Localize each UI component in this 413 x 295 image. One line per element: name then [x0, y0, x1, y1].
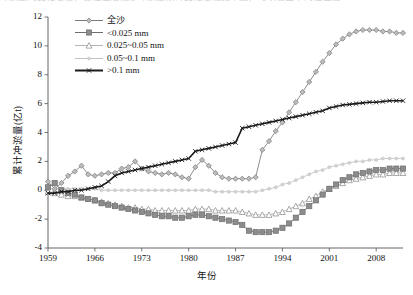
data-point-marker [240, 176, 245, 181]
data-point-marker [126, 206, 131, 211]
legend-item-1: 全沙 [74, 14, 164, 27]
legend-marker-triangle-icon [74, 40, 104, 51]
data-point-marker [340, 178, 345, 183]
data-point-marker [99, 201, 104, 206]
legend-label: >0.1 mm [107, 64, 140, 77]
y-tick-label: 10 [10, 40, 42, 50]
y-tick-label: -4 [10, 242, 42, 252]
data-point-marker [280, 225, 285, 230]
data-point-marker [159, 214, 164, 219]
data-point-marker [113, 189, 116, 192]
data-point-marker [246, 176, 251, 181]
data-point-marker [380, 29, 385, 34]
data-point-marker [293, 215, 298, 220]
data-point-marker [306, 196, 312, 202]
data-point-marker [220, 217, 225, 222]
data-point-marker [119, 205, 124, 210]
data-point-marker [394, 166, 399, 171]
data-point-marker [308, 173, 311, 176]
legend-marker-square-icon [74, 27, 104, 38]
data-point-marker [132, 208, 137, 213]
data-point-marker [86, 196, 91, 201]
data-point-marker [281, 183, 284, 186]
data-point-marker [287, 221, 292, 226]
data-point-marker [347, 175, 352, 180]
data-point-marker [207, 189, 210, 192]
legend-marker-cross-icon [74, 65, 104, 76]
data-point-marker [273, 228, 278, 233]
data-point-marker [374, 27, 379, 32]
data-point-marker [367, 27, 372, 32]
data-point-marker [220, 175, 225, 180]
x-tick-label: 1994 [264, 253, 300, 263]
plot-canvas [0, 0, 413, 295]
chart-figure: 冲淤量的变化过程，各粒径组泥沙冲淤量累计变化过程见下图，可以看出不同粒径组 全沙… [0, 0, 413, 295]
data-point-marker [86, 18, 91, 23]
y-axis-title: 累计冲淤量(亿t) [10, 106, 24, 175]
data-point-marker [139, 209, 144, 214]
legend-item-4: 0.05~0.1 mm [74, 52, 164, 65]
x-tick-label: 1966 [77, 253, 113, 263]
data-point-marker [321, 169, 324, 172]
data-point-marker [120, 189, 123, 192]
x-tick-label: 1973 [124, 253, 160, 263]
data-point-marker [360, 27, 365, 32]
data-point-marker [360, 170, 365, 175]
data-point-marker [381, 157, 384, 160]
chart-legend: 全沙<0.025 mm0.025~0.05 mm0.05~0.1 mm>0.1 … [74, 14, 164, 77]
data-point-marker [293, 203, 299, 209]
data-point-marker [313, 198, 318, 203]
data-point-marker [186, 176, 191, 181]
data-point-marker [300, 89, 305, 94]
data-point-marker [159, 172, 164, 177]
data-point-marker [261, 189, 264, 192]
data-point-marker [253, 175, 258, 180]
data-point-marker [106, 170, 111, 175]
legend-item-2: <0.025 mm [74, 27, 164, 40]
y-tick-label: -2 [10, 213, 42, 223]
data-point-marker [293, 100, 298, 105]
data-point-marker [387, 29, 392, 34]
data-point-marker [134, 189, 137, 192]
data-point-marker [240, 222, 245, 227]
data-point-marker [247, 190, 250, 193]
data-point-marker [106, 202, 111, 207]
data-point-marker [92, 198, 97, 203]
data-point-marker [274, 186, 277, 189]
data-point-marker [400, 30, 405, 35]
data-point-marker [400, 166, 405, 171]
data-point-marker [201, 189, 204, 192]
data-point-marker [127, 189, 130, 192]
data-point-marker [45, 185, 50, 190]
x-tick-label: 1959 [30, 253, 66, 263]
data-point-marker [119, 166, 124, 171]
data-point-marker [173, 215, 178, 220]
data-point-marker [199, 212, 204, 217]
data-point-marker [254, 190, 257, 193]
data-point-marker [341, 163, 344, 166]
data-point-marker [395, 157, 398, 160]
data-point-marker [179, 175, 184, 180]
data-point-marker [233, 176, 238, 181]
data-point-marker [300, 200, 306, 206]
legend-marker-diamond-icon [74, 15, 104, 26]
data-point-marker [402, 157, 405, 160]
data-point-marker [327, 186, 332, 191]
data-point-marker [368, 158, 371, 161]
data-point-marker [160, 189, 163, 192]
data-point-marker [146, 169, 151, 174]
data-point-marker [153, 170, 158, 175]
data-point-marker [328, 166, 331, 169]
data-point-marker [146, 211, 151, 216]
y-tick-label: 0 [10, 184, 42, 194]
data-point-marker [287, 110, 292, 115]
data-point-marker [194, 189, 197, 192]
data-point-marker [367, 169, 372, 174]
data-point-marker [72, 192, 77, 197]
y-tick-label: 12 [10, 11, 42, 21]
legend-label: 0.025~0.05 mm [107, 39, 164, 52]
data-point-marker [140, 189, 143, 192]
data-point-marker [300, 209, 305, 214]
data-point-marker [186, 214, 191, 219]
data-point-marker [86, 30, 91, 35]
